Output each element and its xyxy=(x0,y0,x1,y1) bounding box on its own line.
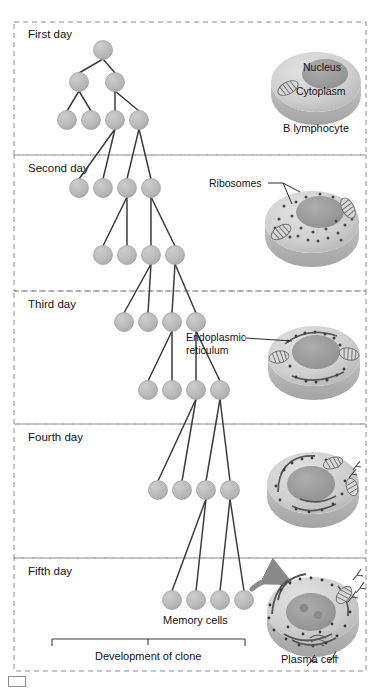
cytoplasm-label: Cytoplasm xyxy=(296,85,346,97)
cell-node xyxy=(142,246,161,265)
cell-node xyxy=(70,73,89,92)
cell-node xyxy=(70,179,89,198)
plasma-cell-illustration xyxy=(267,569,366,666)
cell-node xyxy=(163,381,182,400)
memory-cell-node xyxy=(235,591,254,610)
cell-node xyxy=(58,111,77,130)
b-lymphocyte-caption: B lymphocyte xyxy=(283,122,349,134)
cell-node xyxy=(149,481,168,500)
day-label-first: First day xyxy=(28,28,72,40)
cell-node xyxy=(130,111,149,130)
figure-canvas: First day Second day Third day Fourth da… xyxy=(0,0,380,693)
cell-node xyxy=(166,246,185,265)
endoplasmic-reticulum-label-line2: reticulum xyxy=(186,344,229,356)
cell-node xyxy=(211,381,230,400)
nucleus-shape xyxy=(292,335,340,369)
development-of-clone-label: Development of clone xyxy=(95,650,201,662)
cell-node xyxy=(187,381,206,400)
day4-cell-illustration xyxy=(267,452,361,528)
cell-node xyxy=(115,313,134,332)
day2-cell-illustration xyxy=(265,191,359,267)
cell-node xyxy=(139,313,158,332)
nucleus-shape xyxy=(287,466,335,502)
cell-node xyxy=(142,179,161,198)
ribosomes-label: Ribosomes xyxy=(209,177,262,189)
clone-tree-nodes xyxy=(58,41,254,610)
memory-cell-node xyxy=(211,591,230,610)
cell-node xyxy=(94,179,113,198)
cell-node xyxy=(106,73,125,92)
day-label-fifth: Fifth day xyxy=(28,565,72,577)
cell-node xyxy=(94,41,113,60)
day-label-fourth: Fourth day xyxy=(28,431,83,443)
memory-cell-node xyxy=(187,591,206,610)
cell-node xyxy=(221,481,240,500)
plasma-cell-caption: Plasma cell xyxy=(281,653,337,665)
memory-cell-node xyxy=(163,591,182,610)
figure-number-mark xyxy=(8,676,26,687)
cell-node xyxy=(163,313,182,332)
cell-node xyxy=(197,481,216,500)
cell-node xyxy=(173,481,192,500)
cell-node xyxy=(139,381,158,400)
memory-cells-label: Memory cells xyxy=(163,614,228,626)
clonal-expansion-diagram: First day Second day Third day Fourth da… xyxy=(0,0,380,693)
cell-node xyxy=(82,111,101,130)
cell-node xyxy=(94,246,113,265)
day-label-third: Third day xyxy=(28,298,76,310)
nucleus-shape xyxy=(296,196,344,228)
nucleus-shape xyxy=(286,593,336,631)
development-of-clone-bracket xyxy=(52,639,245,646)
nucleus-label: Nucleus xyxy=(303,61,341,73)
endoplasmic-reticulum-label-line1: Endoplasmic xyxy=(186,331,246,343)
cell-node xyxy=(118,246,137,265)
cell-node xyxy=(187,313,206,332)
day3-cell-illustration xyxy=(268,326,360,400)
cell-node xyxy=(118,179,137,198)
cell-node xyxy=(106,111,125,130)
day-label-second: Second day xyxy=(28,162,89,174)
